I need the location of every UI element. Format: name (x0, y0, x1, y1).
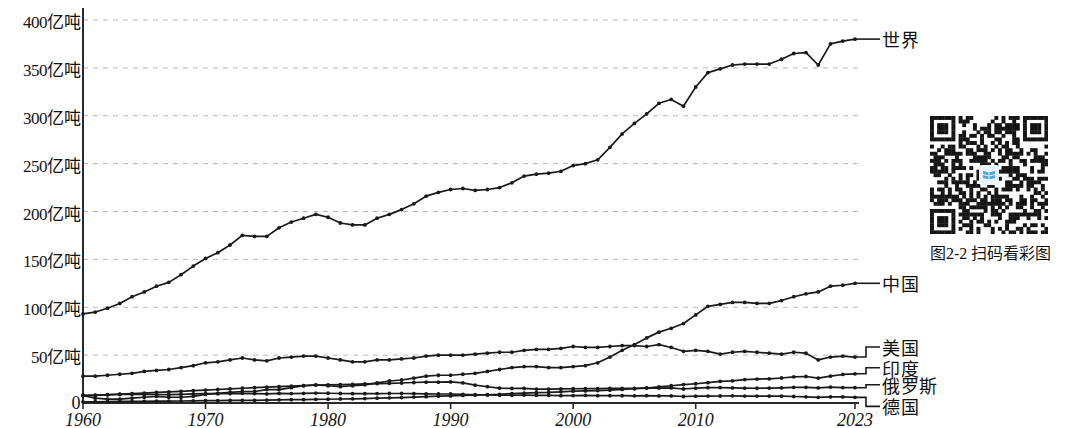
data-point (302, 384, 306, 388)
qr-code-icon[interactable] (930, 116, 1048, 234)
x-tick-label: 1980 (310, 410, 346, 428)
data-point (718, 352, 722, 356)
data-point (375, 392, 379, 396)
data-point (81, 312, 85, 316)
data-point (620, 132, 624, 136)
data-point (118, 372, 122, 376)
book-logo-icon (979, 165, 999, 185)
data-point (584, 387, 588, 391)
data-point (829, 42, 833, 46)
data-point (780, 57, 784, 61)
data-point (645, 394, 649, 398)
data-point (498, 368, 502, 372)
data-point (718, 394, 722, 398)
y-tick-label: 350亿吨 (23, 55, 80, 80)
data-point (130, 295, 134, 299)
data-point (706, 381, 710, 385)
data-point (461, 372, 465, 376)
data-point (767, 394, 771, 398)
data-point (522, 393, 526, 397)
data-point (596, 387, 600, 391)
data-point (731, 350, 735, 354)
data-point (338, 392, 342, 396)
data-point (93, 400, 97, 404)
data-point (412, 381, 416, 385)
data-point (167, 399, 171, 403)
data-point (510, 387, 514, 391)
y-tick-label: 200亿吨 (23, 199, 80, 224)
data-point (571, 365, 575, 369)
data-point (375, 216, 379, 220)
data-point (584, 162, 588, 166)
data-point (351, 382, 355, 386)
data-point (351, 397, 355, 401)
data-point (106, 393, 110, 397)
data-point (792, 350, 796, 354)
data-point (338, 221, 342, 225)
data-point (682, 322, 686, 326)
data-point (363, 360, 367, 364)
data-point (731, 63, 735, 67)
data-point (326, 391, 330, 395)
figure-co2-emissions-by-country: 050亿吨100亿吨150亿吨200亿吨250亿吨300亿吨350亿吨400亿吨… (0, 0, 1070, 428)
data-point (645, 112, 649, 116)
data-point (804, 385, 808, 389)
data-point (228, 399, 232, 403)
data-point (743, 349, 747, 353)
data-point (694, 348, 698, 352)
data-point (792, 385, 796, 389)
data-point (204, 361, 208, 365)
data-point (645, 336, 649, 340)
data-point (277, 392, 281, 396)
data-point (387, 392, 391, 396)
data-point (142, 392, 146, 396)
data-point (363, 392, 367, 396)
data-point (351, 360, 355, 364)
data-point (804, 351, 808, 355)
data-point (767, 386, 771, 390)
data-point (816, 395, 820, 399)
data-point (841, 373, 845, 377)
data-point (522, 174, 526, 178)
data-point (265, 235, 269, 239)
data-point (351, 392, 355, 396)
data-point (767, 351, 771, 355)
data-point (522, 348, 526, 352)
data-point (706, 349, 710, 353)
series-line (83, 283, 855, 399)
x-tick-label: 2000 (555, 410, 591, 428)
data-point (473, 352, 477, 356)
data-point (473, 189, 477, 193)
data-point (118, 393, 122, 397)
data-point (167, 368, 171, 372)
data-point (657, 101, 661, 105)
data-point (596, 158, 600, 162)
data-point (142, 370, 146, 374)
series-line (83, 345, 855, 377)
data-point (804, 51, 808, 55)
data-point (436, 373, 440, 377)
data-point (351, 223, 355, 227)
data-point (228, 387, 232, 391)
data-point (400, 208, 404, 212)
data-point (657, 394, 661, 398)
series-label-0: 世界 (882, 26, 919, 52)
data-point (118, 302, 122, 306)
data-point (277, 226, 281, 230)
data-point (314, 391, 318, 395)
data-point (535, 172, 539, 176)
line-chart-svg (0, 0, 880, 428)
data-point (363, 382, 367, 386)
data-point (608, 345, 612, 349)
data-point (191, 399, 195, 403)
data-point (633, 386, 637, 390)
data-point (228, 392, 232, 396)
data-point (289, 398, 293, 402)
data-point (645, 386, 649, 390)
data-point (841, 283, 845, 287)
y-tick-label: 100亿吨 (23, 295, 80, 320)
data-point (596, 361, 600, 365)
data-point (253, 392, 257, 396)
data-point (669, 326, 673, 330)
data-point (755, 62, 759, 66)
